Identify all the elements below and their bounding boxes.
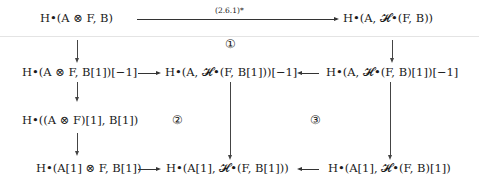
arrow-right-down-1	[392, 40, 393, 60]
arrow-left-down-1	[77, 40, 78, 60]
arrow-label-2-6-1: (2.6.1)*	[215, 6, 244, 15]
node-bottom-left: H•(A[1] ⊗ F, B[1])	[36, 161, 142, 175]
node-bottom-center: H•(A[1], 𝓗•(F, B[1]))	[166, 161, 289, 175]
node-mid-center: H•(A, 𝓗•(F, B[1]))[−1]	[165, 65, 297, 79]
arrow-top-horizontal	[137, 19, 337, 20]
arrow-right-down-2	[390, 82, 391, 157]
node-bottom-right: H•(A[1], 𝓗•(F, B)[1])	[328, 161, 451, 175]
arrow-head-right-icon	[156, 167, 161, 171]
arrow-mid-left-to-center	[138, 73, 158, 74]
arrow-mid-right-to-center	[300, 73, 319, 74]
arrow-center-down	[230, 82, 231, 157]
node-top-right: H•(A, 𝓗•(F, B))	[343, 11, 433, 25]
arrow-head-right-icon	[156, 71, 161, 75]
arrow-head-right-icon	[334, 17, 339, 21]
arrow-head-down-icon	[388, 155, 392, 160]
region-label-1: ①	[225, 38, 236, 50]
arrow-head-down-icon	[390, 58, 394, 63]
arrow-head-down-icon	[75, 97, 79, 102]
node-lower-left: H•((A ⊗ F)[1], B[1])	[22, 113, 138, 127]
arrow-bottom-left-to-center	[138, 169, 158, 170]
arrow-head-down-icon	[75, 58, 79, 63]
arrow-head-down-icon	[75, 151, 79, 156]
node-mid-left: H•(A ⊗ F, B[1])[−1]	[22, 65, 137, 79]
node-top-left: H•(A ⊗ F, B)	[40, 11, 113, 25]
region-label-3: ③	[310, 114, 321, 126]
region-label-2: ②	[172, 114, 183, 126]
arrow-left-down-3	[77, 133, 78, 153]
separator-line-top	[0, 36, 479, 37]
node-mid-right: H•(A, 𝓗•(F, B)[1])[−1]	[326, 65, 458, 79]
arrow-head-down-icon	[228, 155, 232, 160]
arrow-bottom-right-to-center	[300, 169, 319, 170]
